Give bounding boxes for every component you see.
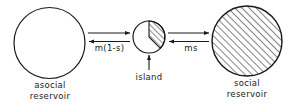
island-label-line1: island: [124, 73, 174, 82]
social-reservoir-label-line1: social: [211, 78, 283, 89]
island-label: island: [124, 73, 174, 82]
asocial-reservoir-label: asocial reservoir: [14, 80, 86, 101]
asocial-reservoir-label-line2: reservoir: [14, 91, 86, 102]
diagram-canvas: asocial reservoir island social reservoi…: [0, 0, 297, 106]
flow-label-left: m(1-s): [87, 44, 132, 53]
social-reservoir-label: social reservoir: [211, 78, 283, 99]
flow-label-right: ms: [172, 44, 210, 53]
social-reservoir-circle: [212, 6, 282, 76]
asocial-reservoir-circle: [14, 8, 85, 79]
asocial-reservoir-label-line1: asocial: [14, 80, 86, 91]
social-reservoir-label-line2: reservoir: [211, 89, 283, 100]
